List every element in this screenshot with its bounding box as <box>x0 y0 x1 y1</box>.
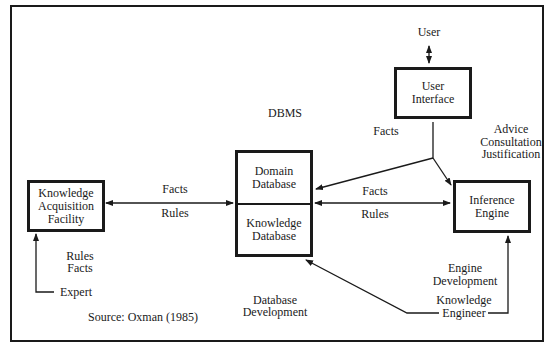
user-label: User <box>412 26 446 39</box>
dbms-node: Domain Database Knowledge Database <box>235 150 313 257</box>
source-citation: Source: Oxman (1985) <box>88 311 198 324</box>
user-interface-node: User Interface <box>394 67 472 119</box>
inference-engine-node: Inference Engine <box>453 180 531 233</box>
inference-engine-line2: Engine <box>475 207 509 220</box>
ui-facts-label: Facts <box>366 125 406 138</box>
domain-database-node: Domain Database <box>238 153 310 205</box>
knowledge-acquisition-facility-node: Knowledge Acquisition Facility <box>27 180 105 232</box>
database-development-line2: Development <box>235 306 315 319</box>
knowledge-database-line1: Knowledge <box>246 217 301 230</box>
domain-database-line2: Database <box>252 178 296 191</box>
expert-facts-label: Facts <box>60 262 100 275</box>
engine-development-line2: Development <box>430 275 500 288</box>
inference-engine-line1: Inference <box>469 194 514 207</box>
kaf-line2: Acquisition <box>38 200 94 213</box>
knowledge-database-line2: Database <box>252 230 296 243</box>
kaf-db-facts-label: Facts <box>155 183 195 196</box>
knowledge-engineer-line2: Engineer <box>434 307 494 320</box>
kaf-db-rules-label: Rules <box>155 207 195 220</box>
dbms-label: DBMS <box>260 107 310 120</box>
db-ie-rules-label: Rules <box>355 208 395 221</box>
advice-label-3: Justification <box>476 148 546 161</box>
db-ie-facts-label: Facts <box>355 185 395 198</box>
knowledge-database-node: Knowledge Database <box>238 205 310 254</box>
user-interface-line2: Interface <box>412 93 455 106</box>
kaf-line1: Knowledge <box>38 187 93 200</box>
expert-label: Expert <box>56 286 96 299</box>
kaf-line3: Facility <box>48 213 85 226</box>
